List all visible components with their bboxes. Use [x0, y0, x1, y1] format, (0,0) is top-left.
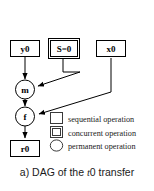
dag-diagram: y0 S=0 x0 m f r0 — [0, 0, 154, 191]
legend-item-concurrent: concurrent operation — [51, 127, 136, 139]
node-r0[interactable]: r0 — [11, 141, 40, 157]
square-icon — [51, 113, 63, 124]
node-y0[interactable]: y0 — [11, 41, 40, 57]
figure-container: y0 S=0 x0 m f r0 — [0, 0, 154, 191]
edge-group — [25, 57, 111, 138]
node-s0-label: S=0 — [57, 44, 72, 54]
caption-prefix: a) DAG of the — [20, 166, 87, 178]
node-y0-label: y0 — [21, 44, 31, 54]
figure-caption: a) DAG of the t0 transfer — [20, 166, 135, 178]
node-r0-label: r0 — [21, 144, 30, 154]
circle-icon — [50, 140, 62, 151]
caption-suffix: 0 transfer — [90, 166, 135, 178]
legend-item-sequential: sequential operation — [51, 113, 135, 125]
caption-line: a) DAG of the t0 transfer — [20, 166, 135, 178]
legend: sequential operation concurrent operatio… — [50, 113, 136, 152]
double-square-icon-inner — [53, 129, 61, 136]
legend-label-sequential: sequential operation — [68, 115, 134, 124]
edge-s0-to-m — [38, 58, 80, 86]
node-x0-label: x0 — [107, 44, 117, 54]
legend-label-permanent: permanent operation — [68, 142, 136, 151]
node-m[interactable]: m — [16, 80, 35, 99]
edge-x0-to-f — [39, 58, 111, 114]
node-f[interactable]: f — [16, 107, 35, 126]
legend-label-concurrent: concurrent operation — [68, 129, 136, 138]
legend-item-permanent: permanent operation — [50, 140, 135, 151]
node-s0[interactable]: S=0 — [49, 39, 80, 59]
node-m-label: m — [21, 85, 29, 95]
node-x0[interactable]: x0 — [97, 41, 126, 57]
